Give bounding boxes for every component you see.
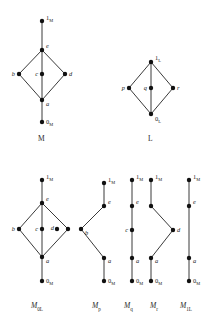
node-sub-one: L: [158, 58, 161, 63]
node-zero: [40, 279, 44, 283]
hasse-diagrams-canvas: 1Mebcda0M1Lpqr0L1Mebcda0M1Meba0M1Meca0M1…: [0, 0, 210, 327]
node-label-zero: 0M: [46, 277, 53, 286]
caption-Mr: Mr: [150, 301, 158, 312]
node-one: [149, 60, 153, 64]
diagram-Mq: 1Meca0M: [125, 173, 143, 286]
node-e: [149, 204, 153, 208]
node-label-a: a: [108, 257, 111, 264]
node-label-e: e: [108, 198, 111, 205]
node-e: [40, 201, 44, 205]
node-sub-one: M: [139, 177, 143, 182]
node-label-b: b: [85, 229, 88, 236]
edge-d-a: [42, 74, 65, 100]
node-label-c: c: [35, 70, 38, 77]
node-label-a: a: [46, 257, 49, 264]
node-sub-one: M: [158, 177, 162, 182]
diagram-M0L: 1Mebcda0M: [12, 173, 70, 286]
node-label-one: 1L: [155, 54, 161, 63]
node-label-d: d: [69, 70, 73, 77]
node-sub-one: M: [111, 180, 115, 185]
node-sub-zero: L: [158, 119, 161, 124]
node-zero: [149, 279, 153, 283]
caption-Mq-sub: q: [130, 306, 133, 312]
caption-Mp-sub: p: [98, 306, 101, 312]
node-label-zero: 0M: [46, 118, 53, 127]
edge-dx-a: [42, 229, 68, 257]
node-q: [149, 86, 153, 90]
node-dx: [66, 227, 70, 231]
edge-e-d: [42, 50, 65, 74]
caption-Mq: Mq: [124, 301, 133, 312]
node-d: [55, 227, 59, 231]
caption-M0L-subsub: L: [40, 306, 43, 312]
node-zero: [187, 279, 191, 283]
edge-e-dx: [42, 203, 68, 229]
node-c: [40, 72, 44, 76]
diagram-L: 1Lpqr0L: [121, 54, 180, 124]
edge-b-a: [19, 74, 42, 100]
node-one: [40, 178, 44, 182]
node-label-b: b: [12, 70, 15, 77]
node-label-q: q: [144, 84, 148, 91]
node-label-e: e: [46, 42, 49, 49]
node-c: [130, 228, 134, 232]
node-e: [130, 204, 134, 208]
caption-Mr-sub: r: [156, 306, 158, 312]
edge-e-b: [19, 50, 42, 74]
node-label-p: p: [121, 84, 125, 91]
edge-d-a: [151, 230, 173, 258]
node-one: [130, 178, 134, 182]
node-a: [40, 98, 44, 102]
edge-r-zero: [151, 88, 173, 114]
node-b: [79, 227, 83, 231]
node-d: [63, 72, 67, 76]
node-one: [187, 178, 191, 182]
node-label-zero: 0L: [155, 115, 161, 124]
node-label-r: r: [177, 84, 180, 91]
node-e: [102, 204, 106, 208]
node-p: [127, 86, 131, 90]
node-label-e: e: [193, 198, 196, 205]
node-label-a: a: [46, 100, 49, 107]
node-sub-one: M: [196, 177, 200, 182]
node-zero: [102, 279, 106, 283]
diagram-Mp: 1Meba0M: [79, 176, 115, 286]
node-zero: [130, 279, 134, 283]
node-a: [149, 256, 153, 260]
edge-e-b: [81, 206, 104, 229]
node-sub-zero: M: [196, 281, 200, 286]
node-one: [149, 178, 153, 182]
node-e: [187, 204, 191, 208]
node-zero: [149, 112, 153, 116]
edge-e-b: [19, 203, 42, 229]
node-label-zero: 0M: [193, 277, 200, 286]
node-label-a: a: [193, 257, 196, 264]
node-label-zero: 0M: [155, 277, 162, 286]
node-label-c: c: [35, 225, 38, 232]
caption-M1L-subsub: L: [189, 306, 192, 312]
node-label-one: 1M: [193, 173, 200, 182]
node-d: [171, 228, 175, 232]
node-sub-zero: M: [49, 281, 53, 286]
node-label-one: 1M: [155, 173, 162, 182]
node-e: [40, 48, 44, 52]
node-label-one: 1M: [136, 173, 143, 182]
node-c: [40, 227, 44, 231]
node-one: [102, 181, 106, 185]
node-sub-one: M: [49, 177, 53, 182]
node-label-c: c: [125, 226, 128, 233]
diagram-M1L: 1Mea0M: [187, 173, 200, 286]
node-zero: [40, 120, 44, 124]
node-label-zero: 0M: [108, 277, 115, 286]
node-label-one: 1M: [108, 176, 115, 185]
diagram-Mr: 1Mda0M: [149, 173, 181, 286]
diagram-M: 1Mebcda0M: [12, 14, 73, 127]
node-a: [40, 255, 44, 259]
node-a: [130, 256, 134, 260]
node-b: [17, 72, 21, 76]
node-label-a: a: [155, 257, 158, 264]
node-label-e: e: [46, 195, 49, 202]
node-sub-one: M: [49, 18, 53, 23]
node-label-a: a: [136, 257, 139, 264]
node-sub-zero: M: [49, 122, 53, 127]
